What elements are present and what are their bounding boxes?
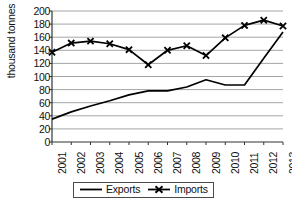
x-tick-label: 2002 — [76, 152, 86, 174]
chart-legend: Exports Imports — [73, 182, 214, 198]
x-tick-label: 2008 — [191, 152, 201, 174]
legend-line-swatch-exports — [79, 185, 103, 194]
x-tick-label: 2003 — [95, 152, 105, 174]
line-chart: thousand tonnes 200180160140120100806040… — [0, 0, 292, 208]
x-tick-label: 2005 — [134, 152, 144, 174]
legend-line-marker-swatch-imports — [147, 185, 171, 194]
x-tick-label: 2009 — [211, 152, 221, 174]
x-tick-label: 2013 — [288, 152, 293, 174]
x-tick-label: 2004 — [114, 152, 124, 174]
legend-label-imports: Imports — [174, 184, 208, 195]
x-tick-label: 2001 — [57, 152, 67, 174]
x-tick-label: 2007 — [172, 152, 182, 174]
x-tick-label: 2012 — [268, 152, 278, 174]
x-tick-label: 2011 — [249, 153, 259, 174]
x-axis-tick-labels: 2001200220032004200520062007200820092010… — [0, 0, 292, 208]
x-tick-label: 2010 — [230, 152, 240, 174]
x-tick-label: 2006 — [153, 152, 163, 174]
legend-item-exports: Exports — [79, 184, 140, 195]
legend-item-imports: Imports — [147, 184, 208, 195]
legend-label-exports: Exports — [106, 184, 140, 195]
